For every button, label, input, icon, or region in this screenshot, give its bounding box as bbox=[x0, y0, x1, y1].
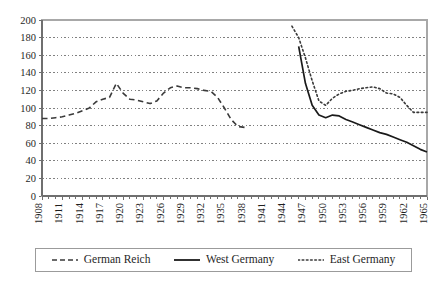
svg-text:1965: 1965 bbox=[418, 203, 429, 224]
chart-container: 020406080100120140160180200 190819111914… bbox=[0, 0, 446, 285]
line-chart-svg: 020406080100120140160180200 190819111914… bbox=[0, 0, 446, 246]
legend-label-east-germany: East Germany bbox=[330, 254, 395, 266]
svg-text:1935: 1935 bbox=[215, 203, 226, 224]
svg-text:1923: 1923 bbox=[134, 203, 145, 224]
data-series-group bbox=[42, 26, 427, 152]
svg-text:1917: 1917 bbox=[94, 203, 105, 224]
svg-text:1962: 1962 bbox=[398, 203, 409, 224]
svg-text:1950: 1950 bbox=[317, 203, 328, 224]
svg-text:1908: 1908 bbox=[33, 203, 44, 224]
legend-swatch-dotted-icon bbox=[298, 255, 324, 265]
x-axis-ticks bbox=[42, 196, 427, 200]
svg-text:0: 0 bbox=[31, 191, 36, 202]
svg-text:80: 80 bbox=[26, 120, 37, 131]
svg-text:1914: 1914 bbox=[74, 202, 85, 224]
svg-text:1956: 1956 bbox=[357, 203, 368, 224]
svg-text:20: 20 bbox=[26, 173, 37, 184]
svg-text:1953: 1953 bbox=[337, 203, 348, 224]
legend-swatch-dashed-icon bbox=[52, 255, 78, 265]
y-axis-labels: 020406080100120140160180200 bbox=[20, 15, 36, 202]
legend-label-german-reich: German Reich bbox=[84, 254, 151, 266]
legend-item-west-germany: West Germany bbox=[174, 254, 274, 266]
series-line-east-germany bbox=[292, 26, 427, 112]
svg-text:1944: 1944 bbox=[276, 202, 287, 224]
svg-text:1911: 1911 bbox=[53, 203, 64, 224]
svg-text:180: 180 bbox=[20, 32, 36, 43]
svg-text:1959: 1959 bbox=[377, 203, 388, 224]
legend-swatch-solid-icon bbox=[174, 255, 200, 265]
svg-text:60: 60 bbox=[26, 138, 37, 149]
svg-text:100: 100 bbox=[20, 103, 36, 114]
svg-text:120: 120 bbox=[20, 85, 36, 96]
grid-lines bbox=[42, 38, 427, 196]
x-axis-labels: 1908191119141917192019231926192919321935… bbox=[33, 202, 429, 224]
chart-legend: German Reich West Germany East Germany bbox=[35, 248, 412, 272]
svg-text:1929: 1929 bbox=[175, 203, 186, 224]
plot-area: 020406080100120140160180200 190819111914… bbox=[0, 0, 446, 246]
svg-text:160: 160 bbox=[20, 50, 36, 61]
legend-item-east-germany: East Germany bbox=[298, 254, 395, 266]
svg-text:1947: 1947 bbox=[296, 203, 307, 224]
svg-text:1920: 1920 bbox=[114, 203, 125, 224]
svg-text:40: 40 bbox=[26, 155, 37, 166]
legend-label-west-germany: West Germany bbox=[206, 254, 274, 266]
legend-item-german-reich: German Reich bbox=[52, 254, 151, 266]
svg-text:1941: 1941 bbox=[256, 203, 267, 224]
svg-text:200: 200 bbox=[20, 15, 36, 26]
svg-text:1938: 1938 bbox=[236, 203, 247, 224]
svg-text:140: 140 bbox=[20, 67, 36, 78]
svg-text:1932: 1932 bbox=[195, 203, 206, 224]
svg-text:1926: 1926 bbox=[155, 203, 166, 224]
